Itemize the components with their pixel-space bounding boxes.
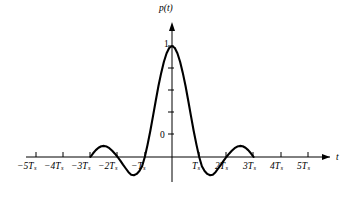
xtick-label-text: 5T (297, 161, 307, 171)
x-axis-arrowhead (322, 154, 330, 160)
xtick-label-4Ts: 4Ts (270, 161, 283, 171)
xtick-label--3Ts: −3Ts (71, 161, 91, 171)
y-axis-label: p(t) (159, 3, 173, 13)
xtick-label-sub: s (280, 164, 283, 171)
xtick-label-sub: s (34, 164, 37, 171)
xtick-label-text: −3T (71, 161, 88, 171)
xtick-label-sub: s (143, 164, 146, 171)
xtick-label-3Ts: 3Ts (243, 161, 256, 171)
xtick-label-1Ts: Ts (192, 161, 200, 171)
xtick-label--1Ts: −Ts (131, 161, 146, 171)
y-axis-arrowhead (169, 22, 175, 31)
xtick-label--2Ts: −2Ts (98, 161, 118, 171)
xtick-label-sub: s (197, 164, 200, 171)
xtick-label-sub: s (88, 164, 91, 171)
xtick-label-text: 4T (270, 161, 280, 171)
xtick-label-5Ts: 5Ts (297, 161, 310, 171)
xtick-label-text: −2T (98, 161, 115, 171)
xtick-label-sub: s (61, 164, 64, 171)
xtick-label-sub: s (307, 164, 310, 171)
xtick-label-sub: s (115, 164, 118, 171)
xtick-label--4Ts: −4Ts (44, 161, 64, 171)
xtick-label-text: 3T (243, 161, 253, 171)
y-value-one: 1 (164, 39, 169, 49)
figure-container: p(t) t 1 0 −5Ts −4Ts −3Ts −2Ts −Ts Ts 2T… (0, 0, 349, 197)
xtick-label-text: −4T (44, 161, 61, 171)
xtick-label-text: 2T (215, 161, 225, 171)
x-axis-label: t (336, 152, 339, 162)
xtick-label-2Ts: 2Ts (215, 161, 228, 171)
y-value-zero: 0 (160, 130, 165, 140)
xtick-label-sub: s (253, 164, 256, 171)
xtick-label--5Ts: −5Ts (17, 161, 37, 171)
xtick-label-text: −T (131, 161, 143, 171)
xtick-label-sub: s (225, 164, 228, 171)
xtick-label-text: −5T (17, 161, 34, 171)
